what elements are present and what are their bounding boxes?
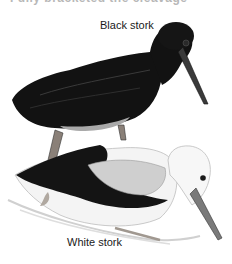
white-stork-label: White stork <box>67 236 122 248</box>
black-stork-label: Black stork <box>100 19 154 31</box>
white-stork-drawing <box>8 145 222 244</box>
stork-illustration <box>0 0 232 264</box>
